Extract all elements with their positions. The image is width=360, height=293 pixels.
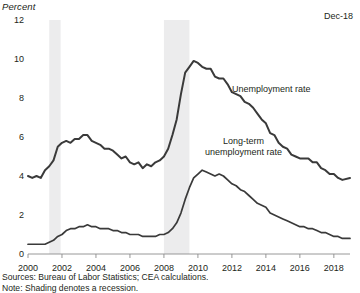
chart-canvas bbox=[28, 20, 350, 259]
y-tick-label: 0 bbox=[19, 249, 24, 259]
x-tick-label: 2012 bbox=[222, 263, 242, 273]
plot-area: 024681012 200020022004200620082010201220… bbox=[28, 20, 350, 254]
recession-band bbox=[49, 20, 60, 254]
y-tick-label: 4 bbox=[19, 171, 24, 181]
y-tick-label: 12 bbox=[14, 15, 24, 25]
shading-note: Note: Shading denotes a recession. bbox=[2, 283, 138, 293]
recession-shading-group bbox=[49, 20, 189, 254]
series-label-longterm-line2: unemployment rate bbox=[205, 147, 282, 157]
y-axis-title: Percent bbox=[2, 1, 35, 12]
y-tick-label: 6 bbox=[19, 132, 24, 142]
axis-ticks bbox=[28, 254, 334, 258]
y-tick-label: 8 bbox=[19, 93, 24, 103]
series-label-longterm-unemployment-rate: Long-term unemployment rate bbox=[205, 136, 282, 157]
x-tick-label: 2016 bbox=[290, 263, 310, 273]
series-label-longterm-line1: Long-term bbox=[223, 136, 264, 146]
x-tick-label: 2014 bbox=[256, 263, 276, 273]
sources-note: Sources: Bureau of Labor Statistics; CEA… bbox=[2, 272, 208, 282]
y-tick-label: 2 bbox=[19, 210, 24, 220]
chart-figure: Percent Dec-18 024681012 200020022004200… bbox=[0, 0, 360, 293]
series-label-unemployment-rate: Unemployment rate bbox=[232, 84, 311, 95]
y-tick-label: 10 bbox=[14, 54, 24, 64]
x-tick-label: 2018 bbox=[324, 263, 344, 273]
recession-band bbox=[164, 20, 189, 254]
